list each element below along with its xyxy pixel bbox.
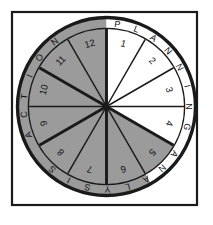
analysis-letter-5: Y: [105, 184, 111, 194]
planning-letter-7: N: [184, 103, 194, 110]
wheel-diagram: 1 2 3 4 5 6 7 8 9 10 11 12 P L A N N: [0, 0, 213, 225]
planning-letter-1: P: [114, 19, 121, 30]
center-hub: [104, 104, 109, 109]
wheel-svg: 1 2 3 4 5 6 7 8 9 10 11 12 P L A N N: [0, 0, 213, 225]
